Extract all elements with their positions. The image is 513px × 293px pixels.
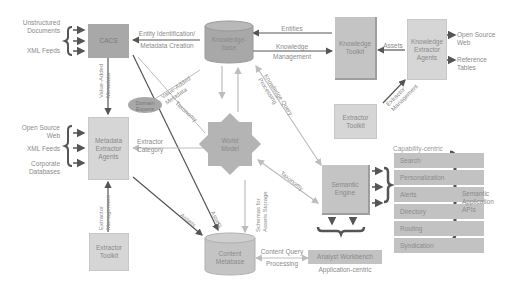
input-xml-feeds-2: XML Feeds — [2, 145, 60, 153]
content-metabase-node[interactable]: ContentMetabase — [205, 246, 255, 270]
capability-search[interactable]: Search — [394, 153, 484, 168]
label-knowledge: Knowledge — [262, 43, 322, 51]
extractor-toolkit-bottom-node[interactable]: ExtractorToolkit — [89, 233, 129, 271]
architecture-diagram: UnstructuredDocuments XML Feeds CACS Ent… — [0, 0, 513, 293]
label-metadata-creation: Metadata Creation — [134, 42, 200, 50]
label-extractor-category: ExtractorCategory — [137, 138, 163, 154]
application-centric-label: Application-centric — [308, 266, 382, 274]
semantic-application-apis-label: SemanticApplicationAPIs — [462, 190, 494, 214]
label-entities: Entities — [262, 25, 322, 33]
capability-personalization[interactable]: Personalization — [394, 170, 484, 185]
analyst-workbench-node[interactable]: Analyst Workbench — [308, 250, 382, 264]
world-model-node[interactable]: WorldModel — [208, 136, 252, 154]
cacs-node[interactable]: CACS — [88, 24, 129, 58]
capability-routing[interactable]: Routing — [394, 221, 484, 236]
label-assets: Assets — [381, 42, 405, 50]
label-content-query: Content Query — [256, 248, 308, 256]
domain-experts-node[interactable]: DomainExperts — [128, 99, 162, 113]
label-schemas-for-assets-storage: Schemas forAssets Storage — [255, 191, 269, 232]
knowledge-base-node[interactable]: Knowledge-base — [205, 32, 253, 56]
knowledge-extractor-agents-node[interactable]: KnowledgeExtractorAgents — [407, 19, 447, 80]
label-management: Management — [262, 53, 322, 61]
label-value-added-metadata-vertical: Value-AddedMetadata — [98, 64, 112, 98]
input-xml-feeds: XML Feeds — [2, 47, 60, 55]
semantic-engine-node[interactable]: SemanticEngine — [322, 165, 370, 215]
cacs-input-brace — [65, 27, 72, 55]
output-open-source-web: Open SourceWeb — [457, 31, 495, 47]
knowledge-toolkit-node[interactable]: KnowledgeToolkit — [335, 17, 377, 80]
capability-centric-heading: Capability-centric — [393, 145, 443, 153]
input-open-source-web: Open SourceWeb — [2, 124, 60, 140]
label-processing: Processing — [256, 260, 308, 268]
input-corporate-databases: CorporateDatabases — [2, 160, 60, 176]
input-unstructured-documents: UnstructuredDocuments — [2, 19, 60, 35]
capability-syndication[interactable]: Syndication — [394, 238, 484, 253]
output-reference-tables: ReferenceTables — [457, 56, 487, 72]
label-extractor-management-bottom: ExtractorManagement — [98, 195, 112, 230]
metadata-extractor-agents-node[interactable]: MetadataExtractorAgents — [88, 117, 129, 180]
extractor-toolkit-top-node[interactable]: ExtractorToolkit — [334, 104, 377, 139]
label-entity-identification: Entity Identification/ — [134, 30, 200, 38]
